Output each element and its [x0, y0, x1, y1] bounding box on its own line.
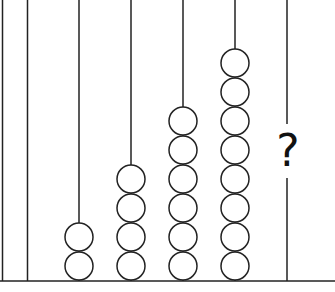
abacus-bead — [221, 165, 249, 193]
abacus-bead — [221, 223, 249, 251]
abacus-bead — [221, 252, 249, 280]
abacus-bead — [169, 223, 197, 251]
abacus-bead — [221, 194, 249, 222]
abacus-bead — [117, 194, 145, 222]
unknown-bead-count-marker: ? — [274, 124, 302, 178]
abacus-bead — [221, 49, 249, 77]
abacus-bead — [65, 223, 93, 251]
abacus-bead — [169, 194, 197, 222]
abacus-bead — [117, 252, 145, 280]
abacus-bead — [117, 223, 145, 251]
abacus-bead — [117, 165, 145, 193]
abacus-bead — [221, 78, 249, 106]
abacus-bead — [169, 252, 197, 280]
abacus-bead — [169, 136, 197, 164]
abacus-bead — [169, 165, 197, 193]
abacus-bead — [169, 107, 197, 135]
abacus-bead — [221, 136, 249, 164]
abacus-bead — [65, 252, 93, 280]
abacus-bead — [221, 107, 249, 135]
